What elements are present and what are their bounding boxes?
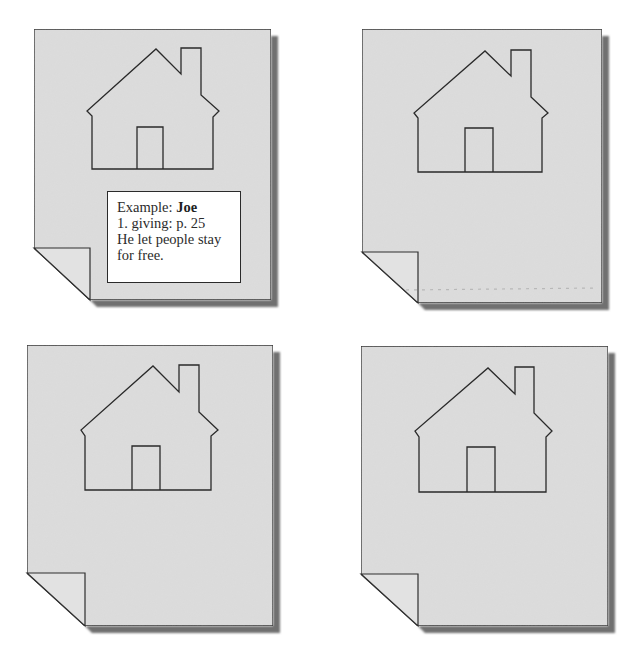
page [362,29,609,310]
note-line-4: for free. [117,247,240,263]
page [361,346,615,633]
example-note: Example: Joe1. giving: p. 25He let peopl… [107,191,241,283]
folded-corner [34,248,90,300]
folded-corner [27,573,85,626]
page [27,345,280,633]
note-line-3: He let people stay [117,231,240,247]
note-line-2: 1. giving: p. 25 [117,215,240,231]
note-label: Example: [117,199,176,215]
figure-canvas [0,0,631,655]
note-name: Joe [176,199,197,215]
folded-corner [362,252,418,303]
note-line-1: Example: Joe [117,199,240,215]
folded-corner [361,574,418,626]
